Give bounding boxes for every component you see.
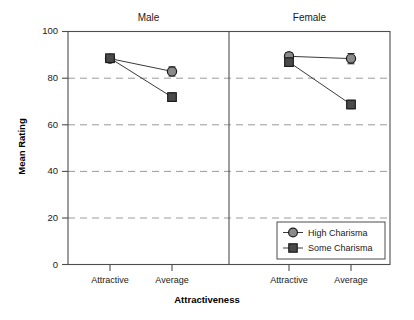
female-some-charisma-line [289, 62, 351, 104]
legend-label-some-charisma: Some Charisma [308, 243, 373, 253]
x-tick-label-female-attractive: Attractive [259, 275, 319, 285]
female-high-charisma-point-average [346, 54, 355, 63]
female-high-charisma-line [289, 56, 351, 58]
x-tick-label-female-average: Average [325, 275, 377, 285]
figure-panel-chart: Male Female Mean Rating 100 80 60 40 20 … [0, 0, 414, 320]
legend-some-charisma-marker [289, 244, 297, 252]
male-high-charisma-point-average [167, 67, 176, 76]
male-high-charisma-line [110, 59, 172, 72]
plot-svg [0, 0, 414, 320]
legend-high-charisma-marker [289, 228, 298, 237]
male-some-charisma-point-average [168, 93, 177, 102]
male-some-charisma-point-attractive [106, 54, 115, 63]
x-tick-label-male-attractive: Attractive [80, 275, 140, 285]
male-some-charisma-line [110, 58, 172, 97]
female-some-charisma-point-attractive [285, 58, 294, 67]
female-some-charisma-point-average [347, 100, 356, 109]
legend-label-high-charisma: High Charisma [308, 228, 368, 238]
x-axis-title: Attractiveness [0, 294, 414, 305]
x-tick-label-male-average: Average [146, 275, 198, 285]
